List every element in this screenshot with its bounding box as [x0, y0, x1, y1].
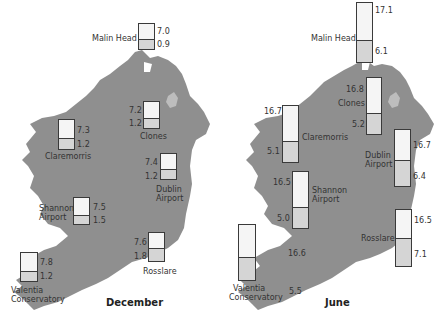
claremorris-label: Claremorris	[45, 152, 91, 161]
malin-head-label: Malin Head	[311, 34, 356, 43]
clones-bar	[143, 101, 160, 129]
june-panel: 17.1 6.1 Malin Head 16.8 5.2 Clones 16.7…	[224, 0, 448, 328]
claremorris-upper-value: 16.7	[264, 107, 282, 116]
valentia-observatory-label-1: Valentia	[233, 284, 265, 293]
shannon-airport-label-1: Shannon	[39, 204, 74, 213]
rosslare-upper-value: 7.6	[134, 238, 147, 247]
valentia-observatory-label-2: Conservatory	[11, 295, 65, 304]
dublin-airport-lower-value: 6.4	[413, 172, 426, 181]
claremorris-upper-value: 7.3	[77, 126, 90, 135]
clones-label: Clones	[140, 132, 167, 141]
shannon-airport-label-1: Shannon	[312, 186, 347, 195]
claremorris-lower-value: 5.1	[267, 147, 280, 156]
december-title: December	[106, 297, 163, 308]
clones-bar	[366, 77, 382, 135]
valentia-observatory-bar	[20, 252, 38, 282]
rosslare-bar	[148, 232, 165, 262]
dublin-airport-upper-value: 16.7	[413, 141, 431, 150]
shannon-airport-lower-value: 1.5	[93, 216, 106, 225]
rosslare-upper-value: 16.5	[414, 216, 432, 225]
december-panel: 7.0 0.9 Malin Head 7.2 1.2 Clones 7.3 1.…	[0, 0, 224, 328]
june-title: June	[325, 297, 350, 308]
dublin-airport-label-1: Dublin	[365, 151, 391, 160]
clones-lower-value: 5.2	[352, 120, 365, 129]
ireland-map	[224, 0, 448, 328]
dublin-airport-bar	[394, 129, 411, 187]
shannon-airport-label-2: Airport	[312, 195, 339, 204]
dublin-airport-lower-value: 1.2	[145, 172, 158, 181]
claremorris-label: Claremorris	[302, 133, 348, 142]
rosslare-lower-value: 1.8	[134, 252, 147, 261]
dublin-airport-bar	[160, 153, 177, 180]
claremorris-lower-value: 1.2	[77, 140, 90, 149]
shannon-airport-label-2: Airport	[39, 213, 66, 222]
valentia-observatory-lower-value: 1.2	[40, 272, 53, 281]
malin-head-bar	[356, 2, 373, 63]
rosslare-lower-value: 7.1	[414, 250, 427, 259]
rosslare-bar	[395, 209, 412, 267]
clones-upper-value: 16.8	[346, 85, 364, 94]
valentia-observatory-bar	[238, 224, 256, 281]
clones-lower-value: 1.2	[129, 119, 142, 128]
malin-head-upper-value: 17.1	[375, 6, 393, 15]
dublin-airport-label-2: Airport	[156, 194, 183, 203]
shannon-airport-upper-value: 7.5	[93, 203, 106, 212]
clones-label: Clones	[338, 99, 365, 108]
valentia-observatory-lower-value: 5.5	[289, 287, 302, 296]
valentia-observatory-label-2: Conservatory	[229, 293, 283, 302]
malin-head-lower-value: 0.9	[157, 40, 170, 49]
malin-head-label: Malin Head	[92, 34, 137, 43]
valentia-observatory-label-1: Valentia	[11, 286, 43, 295]
malin-head-bar	[138, 23, 155, 50]
shannon-airport-bar	[292, 171, 309, 229]
claremorris-bar	[282, 105, 299, 163]
rosslare-label: Rosslare	[361, 234, 395, 243]
malin-head-upper-value: 7.0	[157, 27, 170, 36]
malin-head-lower-value: 6.1	[375, 47, 388, 56]
shannon-airport-lower-value: 5.0	[277, 214, 290, 223]
clones-upper-value: 7.2	[129, 106, 142, 115]
rosslare-label: Rosslare	[143, 267, 177, 276]
claremorris-bar	[58, 119, 75, 150]
shannon-airport-upper-value: 16.5	[273, 178, 291, 187]
valentia-observatory-upper-value: 7.8	[40, 258, 53, 267]
dublin-airport-label-2: Airport	[365, 160, 392, 169]
valentia-observatory-upper-value: 16.6	[288, 249, 306, 258]
dublin-airport-upper-value: 7.4	[145, 158, 158, 167]
dublin-airport-label-1: Dublin	[156, 185, 182, 194]
shannon-airport-bar	[73, 197, 90, 225]
